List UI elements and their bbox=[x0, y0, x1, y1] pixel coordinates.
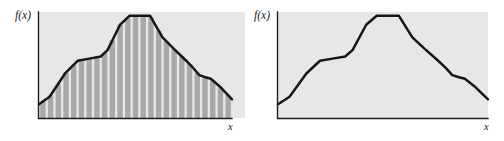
approximation-rectangle bbox=[63, 73, 68, 119]
approximation-rectangle bbox=[218, 87, 223, 118]
x-axis-label: x bbox=[483, 121, 489, 132]
approximation-rectangle bbox=[210, 80, 215, 118]
approximation-rectangle bbox=[156, 31, 161, 118]
approximation-rectangle bbox=[79, 60, 84, 118]
plot-area-background bbox=[278, 12, 488, 118]
approximation-rectangle bbox=[179, 57, 184, 118]
approximation-rectangle bbox=[71, 65, 76, 118]
function-curve-panel: f(x) x bbox=[252, 0, 504, 141]
x-axis-label: x bbox=[227, 121, 233, 132]
figure-root: f(x) x f(x) x bbox=[0, 0, 504, 141]
right-panel-canvas: f(x) x bbox=[252, 0, 504, 141]
approximation-rectangle bbox=[110, 40, 115, 118]
left-panel-canvas: f(x) x bbox=[0, 0, 252, 141]
approximation-rectangle bbox=[171, 49, 176, 118]
approximation-rectangle bbox=[141, 16, 146, 118]
rectangle-approximation-panel: f(x) x bbox=[0, 0, 252, 141]
approximation-rectangle bbox=[133, 16, 138, 118]
approximation-rectangle bbox=[148, 17, 153, 118]
approximation-rectangle bbox=[202, 77, 207, 118]
approximation-rectangle bbox=[125, 18, 130, 118]
approximation-rectangle bbox=[117, 25, 122, 118]
y-axis-label: f(x) bbox=[15, 9, 31, 22]
approximation-rectangle bbox=[86, 59, 91, 118]
approximation-rectangle bbox=[195, 73, 200, 118]
approximation-rectangle bbox=[187, 64, 192, 118]
y-axis-label: f(x) bbox=[254, 9, 270, 22]
approximation-rectangle bbox=[56, 84, 61, 118]
approximation-rectangle bbox=[164, 41, 169, 118]
approximation-rectangle bbox=[102, 53, 107, 118]
approximation-rectangle bbox=[94, 57, 99, 118]
